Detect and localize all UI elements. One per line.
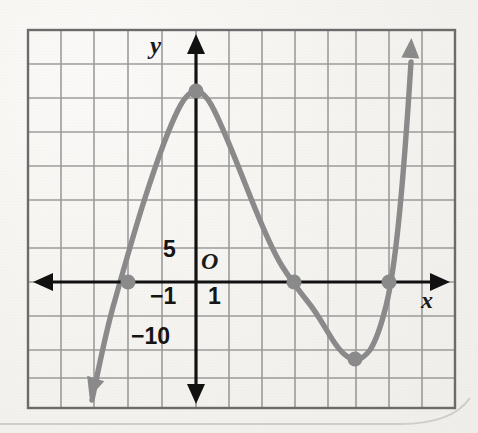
y-tick-label-5: 5 <box>163 238 176 261</box>
x-axis-right-arrowhead <box>430 273 450 291</box>
y-tick-label-negative-10: −10 <box>131 325 170 348</box>
y-axis-label: y <box>150 33 161 58</box>
y-axis-down-arrowhead <box>187 384 205 404</box>
point-x-intercept-left <box>121 275 136 290</box>
cubic-graph-figure: y x O 5 −10 −1 1 <box>0 0 478 433</box>
graph-canvas <box>0 0 478 433</box>
x-tick-label-negative-1: −1 <box>150 285 176 308</box>
x-tick-label-1: 1 <box>208 285 221 308</box>
right-branch-arrow <box>401 38 420 59</box>
x-axis-left-arrowhead <box>33 273 53 291</box>
y-axis-up-arrowhead <box>187 34 205 54</box>
x-axis-label: x <box>421 288 433 312</box>
point-local-maximum <box>189 84 204 99</box>
grid-border <box>28 30 455 408</box>
origin-label: O <box>201 249 218 273</box>
grid-lines <box>28 30 455 408</box>
point-x-intercept-middle <box>287 275 302 290</box>
point-x-intercept-right <box>382 275 397 290</box>
page-edge-curve <box>0 398 470 424</box>
point-local-minimum <box>348 352 363 367</box>
